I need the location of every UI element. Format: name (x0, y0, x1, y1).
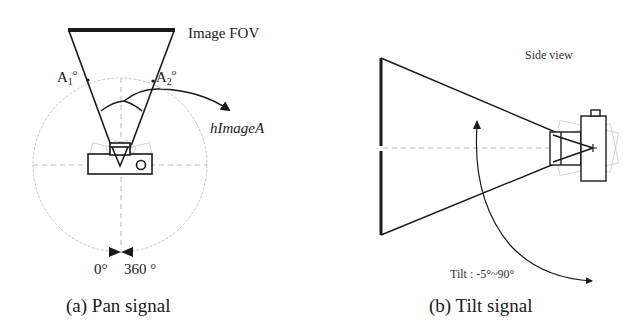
a2-marker (151, 79, 154, 82)
diagram-canvas: Image FOV A1o A2o hImageA 0° 360 ° (a) P… (0, 0, 638, 335)
tilt-range-label: Tilt : -5°~90° (450, 267, 515, 281)
pan-start-label: 0° (94, 261, 108, 277)
hImageA-label: hImageA (210, 120, 265, 136)
pan-diagram: Image FOV A1o A2o hImageA 0° 360 ° (a) P… (33, 25, 265, 317)
pan-camera (88, 143, 152, 174)
tilt-arrow-up-head-icon (473, 120, 481, 129)
image-fov-bar (68, 28, 175, 32)
pan-origin-bowtie-icon (109, 247, 133, 257)
tilt-camera (550, 110, 606, 181)
a1-marker (86, 78, 89, 81)
camera-top-knob (591, 110, 600, 116)
pan-caption: (a) Pan signal (66, 295, 170, 317)
tilt-diagram: Side view Tilt : -5°~90° (b) Tilt signal (381, 48, 619, 317)
camera-lens-box (550, 132, 581, 165)
image-fov-label: Image FOV (188, 25, 259, 41)
tilt-caption: (b) Tilt signal (429, 295, 532, 317)
side-view-label: Side view (525, 48, 573, 62)
angle-a1-label: A1o (57, 67, 78, 87)
hImageA-pointer-arrow (124, 89, 229, 110)
pan-end-label: 360 ° (124, 261, 156, 277)
angle-a2-label: A2o (156, 67, 177, 87)
